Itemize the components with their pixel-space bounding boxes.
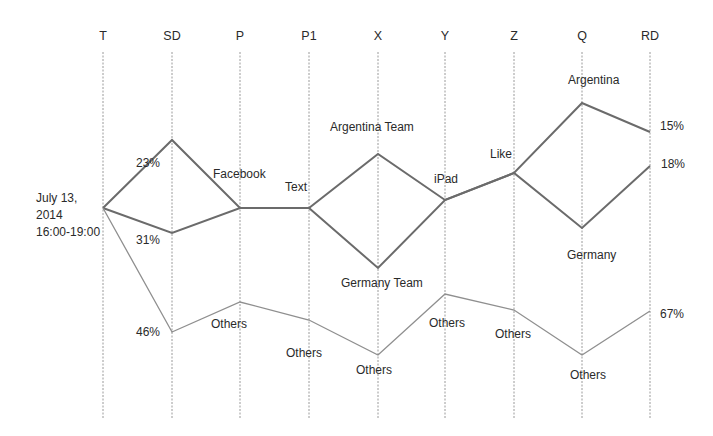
annotation-text: Text <box>285 180 308 194</box>
annotations-group: 23%31%46%FacebookTextArgentina TeamGerma… <box>136 73 685 382</box>
annotation-others-x: Others <box>356 363 392 377</box>
axis-label-t: T <box>99 29 107 43</box>
series-line-0 <box>103 103 650 208</box>
annotation-others-p: Others <box>211 317 247 331</box>
annotation-others-q: Others <box>570 368 606 382</box>
axis-label-z: Z <box>510 29 518 43</box>
annotation-others-z: Others <box>495 327 531 341</box>
annotation-rd-18: 18% <box>661 157 685 171</box>
annotation-sd-mid-pct: 31% <box>136 233 160 247</box>
parallel-coordinates-chart: TSDPP1XYZQRD 23%31%46%FacebookTextArgent… <box>0 0 713 436</box>
axis-label-p1: P1 <box>301 29 316 43</box>
annotation-rd-15: 15% <box>660 119 684 133</box>
axis-label-rd: RD <box>641 29 659 43</box>
axis-label-y: Y <box>441 29 450 43</box>
axis-label-sd: SD <box>163 29 180 43</box>
start-label-line: 16:00-19:00 <box>36 225 100 239</box>
annotation-argentina: Argentina <box>568 73 620 87</box>
annotation-like: Like <box>490 147 512 161</box>
annotation-sd-top-pct: 23% <box>136 156 160 170</box>
series-group <box>103 103 650 355</box>
annotation-sd-low-pct: 46% <box>136 325 160 339</box>
annotation-rd-67: 67% <box>660 307 684 321</box>
axis-label-x: X <box>374 29 383 43</box>
axis-label-q: Q <box>577 29 587 43</box>
annotation-ipad: iPad <box>434 172 458 186</box>
start-label-line: July 13, <box>36 191 77 205</box>
annotation-germany-team: Germany Team <box>341 276 423 290</box>
axis-label-p: P <box>236 29 244 43</box>
annotation-others-y: Others <box>429 316 465 330</box>
annotation-others-p1: Others <box>286 346 322 360</box>
annotation-germany: Germany <box>567 248 616 262</box>
start-label-line: 2014 <box>36 208 63 222</box>
start-time-label: July 13,201416:00-19:00 <box>36 191 100 239</box>
annotation-argentina-team: Argentina Team <box>330 120 414 134</box>
annotation-facebook: Facebook <box>213 167 267 181</box>
